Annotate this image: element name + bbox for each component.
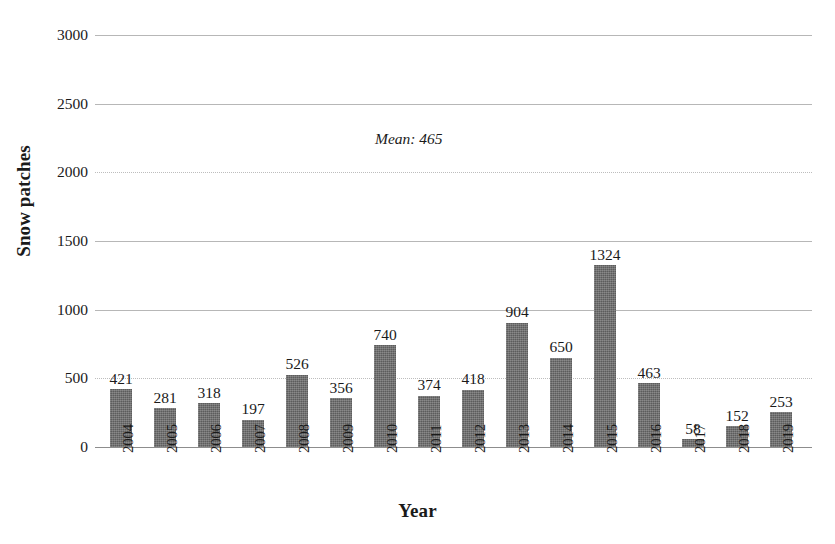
bar-group-2016: 4632016 — [627, 35, 671, 447]
mean-annotation: Mean: 465 — [375, 130, 443, 148]
bar-value-label-2019: 253 — [759, 394, 803, 410]
bar-group-2018: 1522018 — [715, 35, 759, 447]
bar-value-label-2006: 318 — [187, 385, 231, 401]
x-tick-label-2004: 2004 — [121, 424, 136, 453]
bar-group-2005: 2812005 — [143, 35, 187, 447]
bar-value-label-2018: 152 — [715, 408, 759, 424]
bar-value-label-2016: 463 — [627, 365, 671, 381]
bar-group-2009: 3562009 — [319, 35, 363, 447]
bars-group: 4212004281200531820061972007526200835620… — [95, 35, 812, 447]
bar-group-2011: 3742011 — [407, 35, 451, 447]
x-tick-label-2005: 2005 — [165, 424, 180, 453]
bar-value-label-2010: 740 — [363, 327, 407, 343]
y-tick-label-2500: 2500 — [57, 96, 88, 112]
bar-value-label-2011: 374 — [407, 377, 451, 393]
bar-value-label-2015: 1324 — [583, 247, 627, 263]
bar-value-label-2013: 904 — [495, 304, 539, 320]
x-tick-label-2012: 2012 — [473, 424, 488, 453]
x-tick-label-2013: 2013 — [517, 424, 532, 453]
bar-group-2010: 7402010 — [363, 35, 407, 447]
bar-group-2004: 4212004 — [99, 35, 143, 447]
bar-group-2008: 5262008 — [275, 35, 319, 447]
x-tick-label-2006: 2006 — [209, 424, 224, 453]
plot-area: 050010001500200025003000 421200428120053… — [95, 35, 812, 447]
bar-group-2014: 6502014 — [539, 35, 583, 447]
bar-group-2013: 9042013 — [495, 35, 539, 447]
bar-group-2015: 13242015 — [583, 35, 627, 447]
y-tick-label-3000: 3000 — [57, 27, 88, 43]
y-tick-label-1500: 1500 — [57, 233, 88, 249]
y-tick-label-500: 500 — [65, 371, 88, 387]
bar-chart-figure: Snow patches 050010001500200025003000 42… — [0, 0, 835, 544]
bar-value-label-2008: 526 — [275, 356, 319, 372]
x-tick-label-2007: 2007 — [253, 424, 268, 453]
x-tick-label-2015: 2015 — [605, 424, 620, 453]
x-tick-label-2016: 2016 — [649, 424, 664, 453]
y-tick-label-1000: 1000 — [57, 302, 88, 318]
bar-2015[interactable] — [594, 265, 616, 447]
y-axis-title: Snow patches — [13, 91, 35, 311]
bar-group-2006: 3182006 — [187, 35, 231, 447]
figure-caption — [190, 538, 650, 544]
x-tick-label-2017: 2017 — [693, 424, 708, 453]
x-tick-label-2014: 2014 — [561, 424, 576, 453]
bar-group-2019: 2532019 — [759, 35, 803, 447]
x-axis-title: Year — [0, 500, 835, 522]
y-tick-label-0: 0 — [80, 439, 88, 455]
bar-value-label-2007: 197 — [231, 401, 275, 417]
bar-value-label-2009: 356 — [319, 380, 363, 396]
bar-group-2012: 4182012 — [451, 35, 495, 447]
x-tick-label-2009: 2009 — [341, 424, 356, 453]
x-tick-label-2010: 2010 — [385, 424, 400, 453]
bar-group-2007: 1972007 — [231, 35, 275, 447]
x-tick-label-2018: 2018 — [737, 424, 752, 453]
y-tick-label-2000: 2000 — [57, 165, 88, 181]
x-tick-label-2019: 2019 — [781, 424, 796, 453]
bar-value-label-2014: 650 — [539, 339, 583, 355]
x-tick-label-2008: 2008 — [297, 424, 312, 453]
x-tick-label-2011: 2011 — [429, 425, 444, 453]
bar-value-label-2012: 418 — [451, 371, 495, 387]
bar-group-2017: 582017 — [671, 35, 715, 447]
bar-value-label-2004: 421 — [99, 371, 143, 387]
bar-value-label-2005: 281 — [143, 390, 187, 406]
